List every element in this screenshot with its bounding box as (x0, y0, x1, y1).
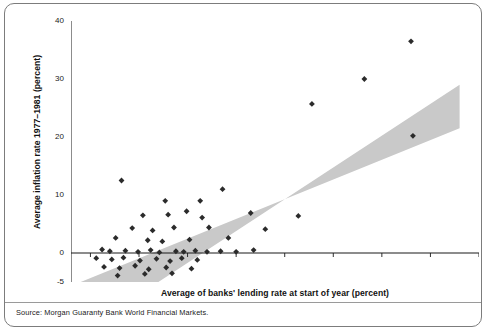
data-point (408, 38, 414, 44)
plot-canvas (71, 21, 479, 282)
data-point (197, 198, 203, 204)
data-point (233, 249, 239, 255)
y-tick-label: 30 (38, 74, 64, 83)
y-tick-label: 0 (38, 248, 64, 257)
data-point (295, 213, 301, 219)
y-tick-label: 40 (38, 16, 64, 25)
data-point (119, 178, 125, 184)
y-tick-label: 20 (38, 132, 64, 141)
data-point (220, 186, 226, 192)
x-axis-title: Average of banks' lending rate at start … (71, 288, 479, 298)
data-point (199, 215, 205, 221)
data-point (171, 225, 177, 231)
data-point (113, 235, 119, 241)
data-point (109, 256, 115, 262)
data-point (148, 247, 154, 253)
y-axis-title: Average inflation rate 1977–1981 (percen… (32, 12, 42, 272)
data-point (159, 239, 165, 245)
data-point (361, 76, 367, 82)
data-point (121, 255, 127, 261)
data-point (145, 237, 151, 243)
data-point (251, 247, 257, 253)
figure-page: Average inflation rate 1977–1981 (percen… (0, 0, 488, 334)
data-point (262, 226, 268, 232)
source-divider (5, 302, 481, 303)
y-tick-label: 10 (38, 190, 64, 199)
data-point (99, 247, 105, 253)
data-point (189, 266, 195, 272)
data-point (135, 249, 141, 255)
y-tick-label: -5 (38, 277, 64, 286)
data-point (101, 264, 107, 270)
data-point (129, 225, 135, 231)
data-point (184, 208, 190, 214)
data-point (150, 227, 156, 233)
scatter-plot (71, 21, 479, 282)
data-point (140, 212, 146, 218)
data-point (309, 101, 315, 107)
data-point (194, 257, 200, 263)
data-point (165, 212, 171, 218)
data-point (162, 198, 168, 204)
data-point (93, 255, 99, 261)
source-note: Source: Morgan Guaranty Bank World Finan… (16, 308, 208, 317)
